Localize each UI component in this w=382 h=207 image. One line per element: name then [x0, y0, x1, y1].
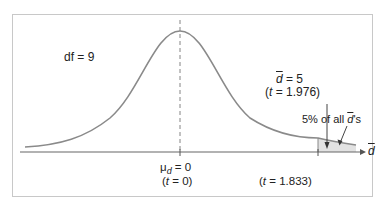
dbar-var: d — [276, 72, 283, 86]
mu-symbol: μ — [160, 161, 167, 173]
tail-suffix: 's — [353, 113, 361, 125]
tail-prefix: 5% of all — [302, 113, 347, 125]
critical-t-label: (t = 1.833) — [259, 175, 312, 188]
observed-d-value: = 5 — [283, 72, 303, 86]
observed-t-value: = 1.976) — [272, 85, 320, 99]
tail-note-label: 5% of all d's — [302, 113, 361, 126]
mean-value: = 0 — [172, 161, 192, 173]
df-text: df = 9 — [64, 50, 94, 64]
axis-variable-label: d — [368, 145, 375, 158]
mean-t-label: (t = 0) — [162, 175, 192, 188]
chart-frame — [13, 15, 373, 197]
df-label: df = 9 — [64, 51, 94, 64]
axis-dbar: d — [368, 144, 375, 158]
observed-t-label: (t = 1.976) — [265, 86, 320, 99]
tail-note-leader — [340, 126, 347, 143]
mean-t-value: = 0) — [169, 175, 192, 187]
critical-t-value: = 1.833) — [266, 175, 312, 187]
axis-arrowhead — [360, 149, 366, 155]
